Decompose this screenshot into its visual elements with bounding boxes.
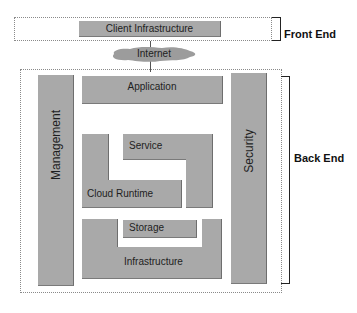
back-end-bracket <box>281 76 290 284</box>
client-infrastructure-block: Client Infrastructure <box>79 21 221 37</box>
management-block: Management <box>38 75 74 286</box>
service-label: Service <box>129 140 162 151</box>
infrastructure-label: Infrastructure <box>124 256 183 267</box>
internet-label: Internet <box>110 48 198 59</box>
management-label: Management <box>49 110 63 180</box>
infrastructure-block: Infrastructure <box>117 247 222 279</box>
service-block: Service <box>123 134 213 160</box>
security-label: Security <box>242 129 256 172</box>
storage-right-piece <box>202 219 222 248</box>
infrastructure-left-piece <box>82 219 118 279</box>
application-block: Application <box>82 76 223 104</box>
front-end-bracket <box>272 17 281 41</box>
front-end-label: Front End <box>284 28 336 40</box>
service-right-piece <box>186 159 213 208</box>
security-block: Security <box>231 73 267 284</box>
application-label: Application <box>82 81 222 92</box>
storage-label: Storage <box>129 222 164 233</box>
storage-block: Storage <box>123 220 197 238</box>
cloud-runtime-label: Cloud Runtime <box>87 188 153 199</box>
back-end-label: Back End <box>294 152 344 164</box>
client-infrastructure-label: Client Infrastructure <box>79 23 220 34</box>
internet-cloud: Internet <box>110 45 198 63</box>
